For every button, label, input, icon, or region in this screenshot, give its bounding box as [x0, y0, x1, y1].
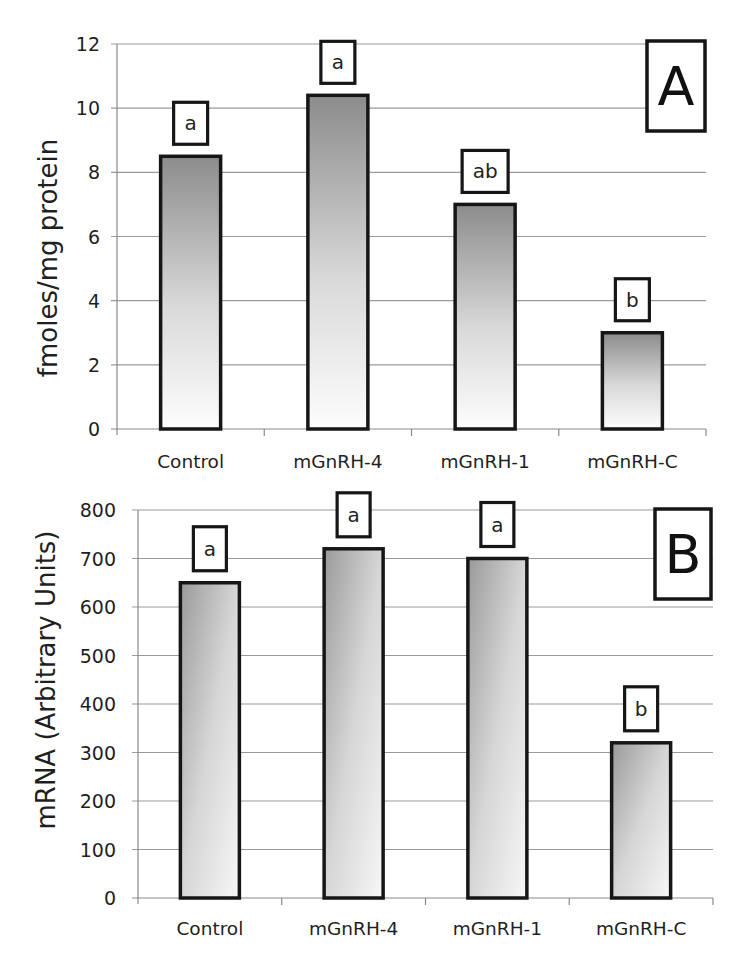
y-axis-title: fmoles/mg protein	[33, 139, 63, 377]
x-category-label: mGnRH-4	[293, 451, 382, 472]
bar-mgnrh-1	[468, 559, 527, 899]
y-tick-label: 500	[80, 645, 116, 667]
y-tick-label: 0	[104, 887, 116, 909]
chart-canvas: 024681012fmoles/mg proteinControlamGnRH-…	[0, 0, 740, 972]
significance-letter: a	[204, 537, 216, 561]
bar-control	[161, 156, 221, 429]
x-category-label: mGnRH-C	[596, 918, 686, 939]
y-tick-label: 600	[80, 596, 116, 618]
y-tick-label: 700	[80, 548, 116, 570]
panel-label: B	[664, 523, 701, 586]
significance-letter: b	[626, 288, 639, 312]
y-tick-label: 4	[88, 290, 100, 312]
y-tick-label: 200	[80, 790, 116, 812]
y-tick-label: 2	[88, 354, 100, 376]
y-tick-label: 0	[88, 418, 100, 440]
y-axis-title: mRNA (Arbitrary Units)	[31, 530, 61, 829]
y-tick-label: 100	[80, 839, 116, 861]
panel-b-chart: 0100200300400500600700800mRNA (Arbitrary…	[31, 493, 713, 939]
bar-mgnrh-c	[602, 333, 662, 429]
significance-letter: ab	[473, 159, 498, 183]
significance-letter: a	[184, 111, 196, 135]
significance-letter: a	[332, 50, 344, 74]
figure: 024681012fmoles/mg proteinControlamGnRH-…	[0, 0, 740, 972]
y-tick-label: 300	[80, 742, 116, 764]
significance-letter: a	[347, 503, 359, 527]
panel-label: A	[658, 55, 695, 118]
figure-caption-cutoff	[0, 960, 740, 972]
bar-mgnrh-4	[308, 95, 368, 429]
significance-letter: b	[635, 697, 648, 721]
bar-mgnrh-4	[324, 549, 383, 898]
x-category-label: mGnRH-1	[440, 451, 529, 472]
y-tick-label: 8	[88, 161, 100, 183]
significance-letter: a	[491, 513, 503, 537]
x-category-label: mGnRH-1	[453, 918, 542, 939]
y-tick-label: 10	[76, 97, 100, 119]
y-tick-label: 800	[80, 499, 116, 521]
panel-a-chart: 024681012fmoles/mg proteinControlamGnRH-…	[33, 33, 706, 472]
bar-mgnrh-1	[455, 204, 515, 429]
x-category-label: Control	[157, 451, 224, 472]
y-tick-label: 12	[76, 33, 100, 55]
bar-mgnrh-c	[612, 743, 671, 898]
y-tick-label: 400	[80, 693, 116, 715]
x-category-label: mGnRH-C	[587, 451, 677, 472]
y-tick-label: 6	[88, 226, 100, 248]
x-category-label: Control	[176, 918, 243, 939]
bar-control	[180, 583, 239, 898]
x-category-label: mGnRH-4	[309, 918, 398, 939]
